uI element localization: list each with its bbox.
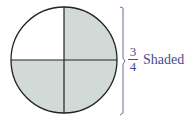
quadrant-bottom-left-shaded (11, 60, 64, 113)
fraction-numerator: 3 (130, 44, 137, 59)
brace-bracket (120, 7, 125, 115)
quadrant-bottom-right-shaded (64, 60, 117, 113)
quadrant-top-right-shaded (64, 7, 117, 60)
shaded-label: Shaded (143, 52, 184, 68)
quadrant-top-left-unshaded (11, 7, 64, 60)
fraction-denominator: 4 (130, 59, 137, 74)
fraction: 3 4 (127, 46, 139, 73)
